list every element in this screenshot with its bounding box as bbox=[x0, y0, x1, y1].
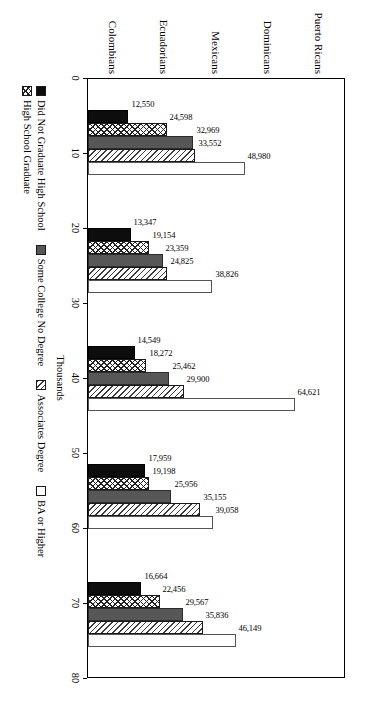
bar[interactable]: 19,154 bbox=[88, 241, 149, 254]
bar[interactable]: 64,621 bbox=[88, 398, 295, 411]
bar-slot: 38,826 bbox=[88, 280, 344, 293]
bar-value-label: 19,198 bbox=[152, 467, 175, 476]
bar-slot: 14,549 bbox=[88, 346, 344, 359]
legend: Did Not Graduate High School Some Colleg… bbox=[19, 86, 47, 686]
legend-label: Associates Degree bbox=[36, 394, 47, 472]
bar-slot: 19,198 bbox=[88, 477, 344, 490]
legend-item-ba-or-higher[interactable]: BA or Higher bbox=[36, 486, 47, 557]
bar[interactable]: 33,552 bbox=[88, 149, 195, 162]
axis-tick-mark bbox=[83, 603, 87, 604]
bar-slot: 46,149 bbox=[88, 634, 344, 647]
bar-value-label: 24,598 bbox=[170, 113, 193, 122]
bar[interactable]: 25,956 bbox=[88, 490, 171, 503]
bar-slot: 48,980 bbox=[88, 162, 344, 175]
bar[interactable]: 19,198 bbox=[88, 477, 149, 490]
bar[interactable]: 38,826 bbox=[88, 280, 212, 293]
legend-item-some-college-no-degree[interactable]: Some College No Degree bbox=[36, 245, 47, 367]
axis-tick-mark bbox=[83, 678, 87, 679]
axis-tick-label: 60 bbox=[70, 523, 81, 534]
value-axis: 01020304050607080 bbox=[67, 78, 87, 678]
bar-value-label: 35,836 bbox=[206, 611, 229, 620]
bar-value-label: 18,272 bbox=[149, 349, 172, 358]
bar-value-label: 38,826 bbox=[215, 270, 238, 279]
legend-label: High School Graduate bbox=[22, 100, 33, 194]
bar-value-label: 17,959 bbox=[148, 454, 171, 463]
bar-slot: 17,959 bbox=[88, 464, 344, 477]
axis-tick: 80 bbox=[70, 661, 87, 695]
legend-item-high-school-graduate[interactable]: High School Graduate bbox=[22, 86, 33, 194]
bar[interactable]: 14,549 bbox=[88, 346, 135, 359]
axis-tick-mark bbox=[83, 78, 87, 79]
bar[interactable]: 35,836 bbox=[88, 621, 203, 634]
bar[interactable]: 25,462 bbox=[88, 372, 169, 385]
axis-tick: 10 bbox=[70, 136, 87, 170]
axis-title: Thousands bbox=[55, 78, 66, 678]
bar[interactable]: 17,959 bbox=[88, 464, 145, 477]
legend-row-secondary: High School Graduate bbox=[22, 86, 33, 686]
axis-tick-mark bbox=[83, 228, 87, 229]
category-label: Ecuadorians bbox=[158, 20, 170, 74]
bar[interactable]: 24,598 bbox=[88, 123, 167, 136]
bar-value-label: 32,969 bbox=[197, 126, 220, 135]
category-label: Dominicans bbox=[262, 21, 274, 74]
axis-tick-label: 80 bbox=[70, 673, 81, 684]
legend-swatch-icon bbox=[23, 86, 33, 96]
axis-tick-label: 70 bbox=[70, 598, 81, 609]
bar-value-label: 22,456 bbox=[163, 585, 186, 594]
bar-value-label: 23,359 bbox=[166, 244, 189, 253]
legend-swatch-icon bbox=[37, 245, 47, 255]
bar-value-label: 24,825 bbox=[170, 257, 193, 266]
bar-slot: 22,456 bbox=[88, 595, 344, 608]
plot-area: 12,55024,59832,96933,55248,98013,34719,1… bbox=[87, 78, 345, 678]
bar-value-label: 64,621 bbox=[298, 388, 321, 397]
bar-value-label: 14,549 bbox=[138, 336, 161, 345]
bar-slot: 39,058 bbox=[88, 516, 344, 529]
bar[interactable]: 13,347 bbox=[88, 228, 131, 241]
bar[interactable]: 24,825 bbox=[88, 267, 167, 280]
bar[interactable]: 32,969 bbox=[88, 136, 194, 149]
axis-tick-label: 0 bbox=[70, 75, 81, 80]
legend-label: BA or Higher bbox=[36, 500, 47, 557]
axis-tick: 50 bbox=[70, 436, 87, 470]
axis-tick-label: 20 bbox=[70, 223, 81, 234]
bar-value-label: 16,664 bbox=[144, 572, 167, 581]
legend-label: Some College No Degree bbox=[36, 259, 47, 367]
axis-tick: 0 bbox=[70, 61, 87, 95]
bar[interactable]: 39,058 bbox=[88, 516, 213, 529]
axis-tick-mark bbox=[83, 528, 87, 529]
bar-value-label: 33,552 bbox=[198, 139, 221, 148]
bar[interactable]: 16,664 bbox=[88, 582, 141, 595]
axis-tick-mark bbox=[83, 153, 87, 154]
axis-tick-mark bbox=[83, 453, 87, 454]
bar-value-label: 25,462 bbox=[172, 362, 195, 371]
bar[interactable]: 48,980 bbox=[88, 162, 245, 175]
bar-value-label: 29,567 bbox=[186, 598, 209, 607]
legend-item-associates-degree[interactable]: Associates Degree bbox=[36, 380, 47, 472]
bar-slot: 18,272 bbox=[88, 359, 344, 372]
bar[interactable]: 29,900 bbox=[88, 385, 184, 398]
bar[interactable]: 18,272 bbox=[88, 359, 146, 372]
bar-group: 16,66422,45629,56735,83646,149 bbox=[88, 555, 344, 673]
bar-value-label: 48,980 bbox=[248, 152, 271, 161]
bar-group: 14,54918,27225,46229,90064,621 bbox=[88, 319, 344, 437]
bar-slot: 16,664 bbox=[88, 582, 344, 595]
bar-slot: 19,154 bbox=[88, 241, 344, 254]
axis-tick: 70 bbox=[70, 586, 87, 620]
bar[interactable]: 22,456 bbox=[88, 595, 160, 608]
bar[interactable]: 46,149 bbox=[88, 634, 236, 647]
legend-item-did-not-graduate-high-school[interactable]: Did Not Graduate High School bbox=[36, 86, 47, 231]
bar-group: 12,55024,59832,96933,55248,980 bbox=[88, 83, 344, 201]
bar[interactable]: 35,155 bbox=[88, 503, 200, 516]
bar-slot: 23,359 bbox=[88, 254, 344, 267]
bar[interactable]: 29,567 bbox=[88, 608, 183, 621]
bar-slot: 33,552 bbox=[88, 149, 344, 162]
axis-tick: 40 bbox=[70, 361, 87, 395]
bar[interactable]: 23,359 bbox=[88, 254, 163, 267]
axis-tick-label: 30 bbox=[70, 298, 81, 309]
bar-value-label: 13,347 bbox=[134, 218, 157, 227]
bar-value-label: 19,154 bbox=[152, 231, 175, 240]
legend-swatch-icon bbox=[37, 86, 47, 96]
bar[interactable]: 12,550 bbox=[88, 110, 128, 123]
axis-tick: 60 bbox=[70, 511, 87, 545]
legend-swatch-icon bbox=[37, 380, 47, 390]
